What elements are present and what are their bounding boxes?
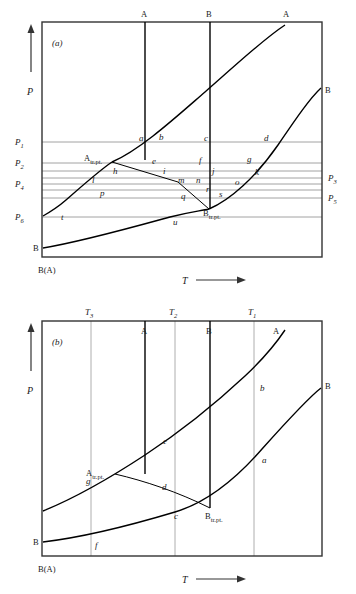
p-axis-label-b: P	[26, 385, 33, 396]
curve-b-b	[43, 388, 321, 542]
curve-label-e: e	[152, 156, 156, 166]
pressure-label-p5: P5	[327, 193, 338, 205]
pressure-labels-right-a: P3 P5	[327, 173, 338, 205]
edge-label-b-left-b: B	[33, 537, 39, 547]
curve-label-b-e: e	[163, 436, 167, 446]
temp-label-t1: T1	[248, 307, 256, 319]
temp-label-t2: T2	[169, 307, 178, 319]
curve-label-u: u	[173, 217, 178, 227]
curve-label-b-g: g	[86, 476, 91, 486]
curve-label-a: a	[139, 133, 144, 143]
transition-line-a	[112, 162, 209, 209]
top-label-a-2: B	[206, 9, 212, 19]
transition-point-b-label-b: Btr.pt.	[205, 511, 223, 523]
transition-point-a-label: Atr.pt.	[84, 153, 102, 165]
pressure-label-p2: P2	[14, 158, 25, 170]
panel-a: (a) P T B(A) A B A B B P1 P2 P4 P6	[0, 0, 356, 300]
p-axis-arrowhead-a	[28, 24, 35, 33]
curve-label-o: o	[235, 177, 240, 187]
pressure-label-p3: P3	[327, 173, 338, 185]
curve-label-c: c	[204, 133, 208, 143]
pressure-label-p4: P4	[14, 179, 25, 191]
temp-label-t3: T3	[85, 307, 94, 319]
pressure-label-p6: P6	[14, 212, 25, 224]
curve-label-n: n	[196, 175, 201, 185]
top-label-a-3: A	[283, 9, 290, 19]
top-label-b-2: B	[206, 326, 212, 336]
origin-label-a: B(A)	[38, 265, 56, 275]
top-label-a-1: A	[141, 9, 148, 19]
curve-label-s: s	[219, 189, 223, 199]
curve-label-f: f	[199, 155, 203, 165]
p-axis-label-a: P	[26, 86, 33, 97]
curve-label-d: d	[264, 133, 269, 143]
pressure-labels-left-a: P1 P2 P4 P6	[14, 137, 25, 224]
panel-b: (b) P T B(A) T3 T2 T1 A B A B B Atr.pt.	[0, 290, 356, 594]
curve-label-b-b: b	[260, 383, 265, 393]
p-axis-arrowhead-b	[28, 323, 35, 332]
panel-b-svg: (b) P T B(A) T3 T2 T1 A B A B B Atr.pt.	[0, 290, 356, 594]
curve-label-b-a: a	[262, 455, 267, 465]
temperature-tick-labels-b: T3 T2 T1	[85, 307, 256, 319]
curve-label-m: m	[178, 175, 185, 185]
curve-label-b-c: c	[174, 511, 178, 521]
curve-labels-b: a b c d e f g	[86, 383, 267, 550]
curve-label-p: p	[99, 188, 105, 198]
top-label-b-1: A	[141, 326, 148, 336]
curve-label-q: q	[181, 191, 186, 201]
t-axis-label-a: T	[182, 275, 189, 286]
panel-a-svg: (a) P T B(A) A B A B B P1 P2 P4 P6	[0, 0, 356, 300]
edge-label-a-right-b: B	[325, 85, 331, 95]
curve-label-b-d: d	[162, 482, 167, 492]
top-label-b-3: A	[273, 326, 280, 336]
edge-label-b-right-b: B	[325, 381, 331, 391]
edge-label-a-left-b: B	[33, 243, 39, 253]
curve-label-h: h	[113, 166, 118, 176]
curve-label-j: j	[211, 166, 215, 176]
panel-b-id: (b)	[52, 337, 63, 347]
curve-b-lower	[43, 209, 209, 248]
t-axis-label-b: T	[182, 574, 189, 585]
curve-label-b: b	[159, 132, 164, 142]
curve-a-upper	[112, 25, 285, 162]
plot-frame-b	[42, 321, 322, 556]
axis-arrows-b	[28, 323, 247, 583]
curve-label-g: g	[247, 154, 252, 164]
curve-label-l: l	[92, 175, 95, 185]
temperature-gridlines-b	[91, 321, 254, 556]
t-axis-arrowhead-a	[237, 277, 246, 284]
t-axis-arrowhead-b	[237, 576, 246, 583]
curve-label-r: r	[206, 184, 210, 194]
origin-label-b: B(A)	[38, 564, 56, 574]
transition-point-b-label: Btr.pt.	[203, 208, 221, 220]
curve-label-b-f: f	[95, 540, 99, 550]
panel-a-id: (a)	[52, 38, 63, 48]
plot-frame-a	[42, 22, 322, 257]
curve-labels-a: a b c d e f g h i j k l m n o p q r s t …	[61, 132, 269, 227]
curve-b-upper-right	[209, 88, 321, 209]
pressure-label-p1: P1	[14, 137, 24, 149]
